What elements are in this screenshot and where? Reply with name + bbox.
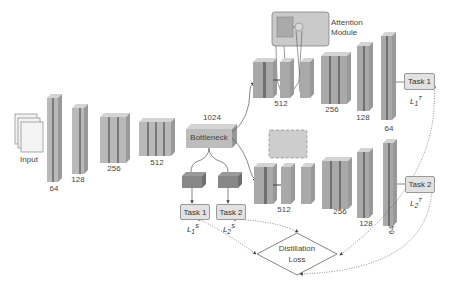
- teacher-bottom-256-label: 256: [333, 208, 346, 216]
- student-loss2-symbol: L2S: [223, 223, 235, 236]
- teacher-bottom-128-label: 128: [359, 220, 372, 228]
- teacher-bottom-512-block: [254, 163, 315, 204]
- bottleneck-label: Bottleneck: [190, 134, 227, 142]
- teacher-top-512-block: [253, 58, 314, 98]
- input-pages-icon: [15, 114, 43, 152]
- loss-superscript: S: [195, 223, 199, 229]
- encoder-128-label: 128: [71, 176, 84, 184]
- diagram-canvas: Input 64 128 256 512 1024 Bottleneck Att…: [0, 0, 451, 289]
- loss-subscript: 1: [415, 100, 419, 107]
- distillation-loss-diamond: [257, 233, 337, 275]
- encoder-256-label: 256: [107, 165, 120, 173]
- distillation-label-line2: Loss: [289, 256, 306, 264]
- bottleneck-size-label: 1024: [203, 114, 221, 122]
- teacher-bottom-64-block: [383, 139, 397, 226]
- teacher-bottom-512-label: 512: [277, 206, 290, 214]
- teacher-top-512-label: 512: [274, 100, 287, 108]
- encoder-512-label: 512: [150, 159, 163, 167]
- teacher-top-64-block: [381, 32, 396, 120]
- teacher-bottom-128-block: [357, 148, 373, 218]
- loss-subscript: 1: [191, 228, 195, 235]
- student-head-2: [218, 172, 242, 188]
- loss-subscript: 2: [415, 202, 419, 209]
- teacher-top-128-label: 128: [356, 114, 369, 122]
- teacher-top-64-label: 64: [385, 125, 394, 133]
- encoder-128-block: [72, 104, 88, 174]
- teacher-bottom-64-label: 64: [388, 226, 396, 235]
- encoder-64-block: [47, 94, 62, 182]
- teacher-task2-box: Task 2: [405, 176, 435, 193]
- encoder-256-block: [100, 113, 130, 163]
- network-architecture-graphic: [0, 0, 451, 289]
- attention-label-line1: Attention: [331, 19, 363, 27]
- teacher-bottom-256-block: [322, 157, 352, 209]
- student-head-1: [182, 172, 206, 188]
- encoder-512-block: [139, 118, 175, 156]
- attention-placeholder-box: [269, 130, 307, 158]
- loss-superscript: T: [418, 197, 422, 203]
- input-label: Input: [20, 156, 38, 164]
- distillation-label-line1: Distillation: [279, 245, 315, 253]
- loss-superscript: T: [418, 95, 422, 101]
- student-task2-box: Task 2: [216, 204, 246, 220]
- teacher-task1-box: Task 1: [404, 73, 435, 90]
- student-loss1-symbol: L1S: [187, 223, 199, 236]
- loss-superscript: S: [231, 223, 235, 229]
- loss-subscript: 2: [227, 228, 231, 235]
- teacher-loss2-symbol: L2T: [410, 197, 422, 210]
- encoder-64-label: 64: [50, 185, 59, 193]
- teacher-loss1-symbol: L1T: [410, 95, 422, 108]
- teacher-top-256-label: 256: [325, 106, 338, 114]
- attention-label-line2: Module: [331, 29, 357, 37]
- teacher-top-256-block: [321, 52, 351, 104]
- attention-module-box: [272, 12, 329, 46]
- student-task1-box: Task 1: [180, 204, 210, 220]
- teacher-top-128-block: [357, 42, 373, 111]
